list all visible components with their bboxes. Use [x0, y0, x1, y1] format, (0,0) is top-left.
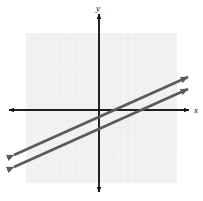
graph-canvas: y x	[0, 0, 203, 201]
x-axis-label: x	[193, 105, 198, 115]
grid-background	[26, 33, 177, 183]
coordinate-plane-figure: y x	[0, 0, 203, 201]
y-axis-label: y	[95, 3, 100, 13]
